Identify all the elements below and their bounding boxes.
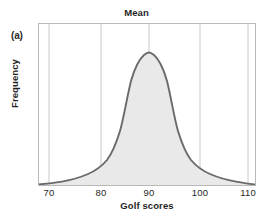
x-axis-label: Golf scores: [38, 200, 256, 211]
x-tick-label-70: 70: [29, 187, 69, 198]
plot-area: [38, 23, 256, 186]
figure-panel: (a) Mean Frequency 70 80 90 100 110 G: [0, 0, 273, 224]
y-axis-label: Frequency: [9, 48, 20, 120]
panel-label: (a): [11, 30, 23, 41]
distribution-chart: [38, 23, 256, 186]
x-tick-label-100: 100: [180, 187, 220, 198]
x-tick-label-90: 90: [129, 187, 169, 198]
x-tick-label-110: 110: [228, 187, 268, 198]
chart-title: Mean: [0, 7, 273, 18]
x-tick-label-80: 80: [81, 187, 121, 198]
